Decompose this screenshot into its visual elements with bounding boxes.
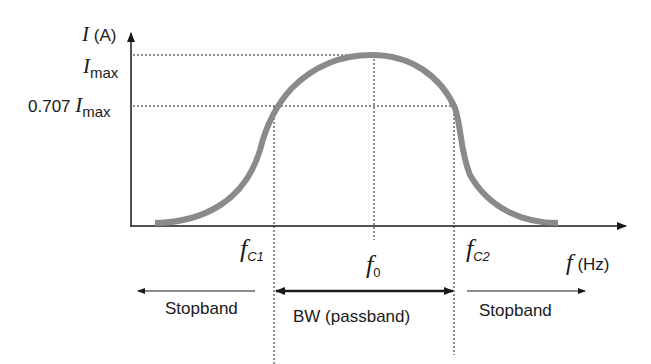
imax-label: Imax — [83, 56, 118, 80]
half-power-subscript: max — [82, 103, 110, 120]
x-axis-symbol: f — [566, 249, 573, 275]
y-axis-label: I (A) — [82, 24, 116, 45]
fc1-subscript: C1 — [247, 249, 264, 264]
imax-subscript: max — [90, 64, 118, 81]
f0-label: f0 — [366, 252, 380, 279]
response-curve — [155, 55, 558, 223]
fc1-label: fC1 — [240, 236, 264, 263]
stopband-right-label: Stopband — [479, 302, 552, 319]
y-axis-unit: (A) — [89, 26, 116, 45]
fc2-label: fC2 — [466, 236, 490, 263]
f0-subscript: 0 — [373, 265, 380, 280]
x-axis-label: f (Hz) — [566, 250, 610, 274]
passband-label: BW (passband) — [293, 308, 410, 325]
x-axis-unit: (Hz) — [573, 255, 610, 274]
half-power-label: 0.707 Imax — [28, 95, 111, 119]
y-axis-symbol: I — [82, 22, 89, 46]
fc2-subscript: C2 — [473, 249, 490, 264]
stopband-left-label: Stopband — [165, 300, 238, 317]
imax-symbol: I — [83, 54, 90, 78]
half-power-factor: 0.707 — [28, 97, 75, 116]
